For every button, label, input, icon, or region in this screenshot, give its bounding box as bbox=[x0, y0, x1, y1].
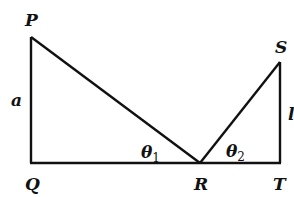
point-label-R: R bbox=[193, 174, 208, 194]
point-label-S: S bbox=[275, 37, 287, 57]
side-label-a: a bbox=[11, 90, 22, 110]
point-label-Q: Q bbox=[25, 174, 40, 194]
segment-PR bbox=[31, 37, 200, 163]
point-label-P: P bbox=[24, 10, 39, 30]
angle-label-theta2: θ2 bbox=[226, 141, 245, 164]
side-label-b: l bbox=[288, 104, 294, 124]
point-label-T: T bbox=[273, 174, 287, 194]
segment-RS bbox=[200, 62, 280, 163]
reflection-diagram: P Q R S T a l θ1 θ2 bbox=[0, 0, 294, 197]
angle-label-theta1: θ1 bbox=[141, 142, 160, 165]
